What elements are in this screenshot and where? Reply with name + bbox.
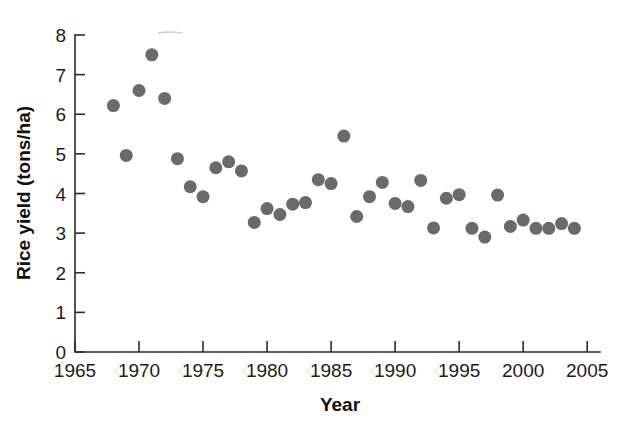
xtick-label: 2005 xyxy=(566,360,608,381)
data-point xyxy=(478,231,491,244)
data-point xyxy=(440,192,453,205)
ytick-label: 5 xyxy=(55,144,66,165)
data-point xyxy=(376,176,389,189)
axis-spine xyxy=(75,35,600,352)
data-point xyxy=(568,222,581,235)
xtick-label: 1985 xyxy=(310,360,352,381)
data-point xyxy=(401,200,414,213)
xtick-label: 1965 xyxy=(54,360,96,381)
data-point xyxy=(517,214,530,227)
data-point xyxy=(107,99,120,112)
data-point xyxy=(325,177,338,190)
y-axis-title: Rice yield (tons/ha) xyxy=(13,106,34,280)
ytick-label: 8 xyxy=(55,25,66,46)
data-point xyxy=(555,217,568,230)
data-point xyxy=(197,190,210,203)
ytick-labels-group: 012345678 xyxy=(55,25,66,363)
data-point xyxy=(414,174,427,187)
data-point xyxy=(389,197,402,210)
data-point xyxy=(491,189,504,202)
chart-canvas: 012345678 196519701975198019851990199520… xyxy=(0,0,634,431)
ytick-label: 6 xyxy=(55,104,66,125)
x-axis-title: Year xyxy=(320,394,361,415)
data-point xyxy=(133,84,146,97)
xtick-marks-group xyxy=(75,341,587,352)
ytick-marks-group xyxy=(75,35,85,352)
xtick-label: 2000 xyxy=(502,360,544,381)
data-point xyxy=(248,216,261,229)
data-point xyxy=(363,190,376,203)
xtick-label: 1980 xyxy=(246,360,288,381)
xtick-label: 1995 xyxy=(438,360,480,381)
data-point xyxy=(350,210,363,223)
axes-group xyxy=(75,35,600,352)
data-point xyxy=(261,202,274,215)
data-point xyxy=(222,155,235,168)
data-point xyxy=(299,196,312,209)
data-point xyxy=(312,173,325,186)
scan-artifact-group xyxy=(158,32,182,33)
data-point xyxy=(184,180,197,193)
scan-artifact-line xyxy=(158,32,182,33)
data-point xyxy=(158,92,171,105)
data-point xyxy=(542,222,555,235)
data-point xyxy=(453,188,466,201)
data-point xyxy=(337,130,350,143)
xtick-label: 1990 xyxy=(374,360,416,381)
data-point xyxy=(504,220,517,233)
xtick-labels-group: 196519701975198019851990199520002005 xyxy=(54,360,608,381)
data-point xyxy=(120,149,133,162)
data-point xyxy=(145,48,158,61)
ytick-label: 7 xyxy=(55,65,66,86)
data-point xyxy=(465,222,478,235)
ytick-label: 2 xyxy=(55,263,66,284)
ytick-label: 1 xyxy=(55,302,66,323)
rice-yield-scatter-figure: 012345678 196519701975198019851990199520… xyxy=(0,0,634,431)
ytick-label: 3 xyxy=(55,223,66,244)
xtick-label: 1975 xyxy=(182,360,224,381)
data-point xyxy=(273,208,286,221)
data-point xyxy=(286,198,299,211)
data-point xyxy=(235,164,248,177)
xtick-label: 1970 xyxy=(118,360,160,381)
data-point xyxy=(427,221,440,234)
data-point xyxy=(171,152,184,165)
data-point xyxy=(209,161,222,174)
data-point xyxy=(529,222,542,235)
data-points-group xyxy=(107,48,581,243)
ytick-label: 4 xyxy=(55,184,66,205)
